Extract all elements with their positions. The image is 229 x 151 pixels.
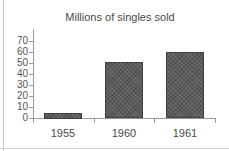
- y-axis-tick-label: 60: [4, 47, 28, 57]
- y-axis-tick-label: 0: [4, 113, 28, 123]
- y-axis-tick-label: 40: [4, 69, 28, 79]
- frame-bottom-border: [0, 148, 229, 149]
- chart-title: Millions of singles sold: [30, 11, 210, 23]
- y-axis-tick-label: 50: [4, 58, 28, 68]
- y-axis-tick-label: 70: [4, 36, 28, 46]
- x-axis-tick: [154, 118, 155, 123]
- x-axis-tick: [33, 118, 34, 123]
- y-axis-tick-label: 20: [4, 91, 28, 101]
- y-axis-tick: [29, 107, 34, 108]
- y-axis-tick-label: 30: [4, 80, 28, 90]
- bar-1960: [105, 62, 143, 118]
- y-axis-tick: [29, 85, 34, 86]
- y-axis-tick: [29, 74, 34, 75]
- x-axis-label-1955: 1955: [33, 127, 93, 139]
- x-axis-tick: [215, 118, 216, 123]
- x-axis-label-1960: 1960: [94, 127, 154, 139]
- y-axis-tick: [29, 52, 34, 53]
- bar-1961: [166, 52, 204, 118]
- bar-1955: [44, 113, 82, 119]
- y-axis-tick: [29, 63, 34, 64]
- y-axis-tick: [29, 41, 34, 42]
- bar-chart: Millions of singles sold 010203040506070…: [0, 0, 229, 151]
- y-axis-tick: [29, 96, 34, 97]
- y-axis-labels: 010203040506070: [2, 0, 28, 151]
- y-axis-tick-label: 10: [4, 102, 28, 112]
- x-axis-tick: [94, 118, 95, 123]
- x-axis-label-1961: 1961: [155, 127, 215, 139]
